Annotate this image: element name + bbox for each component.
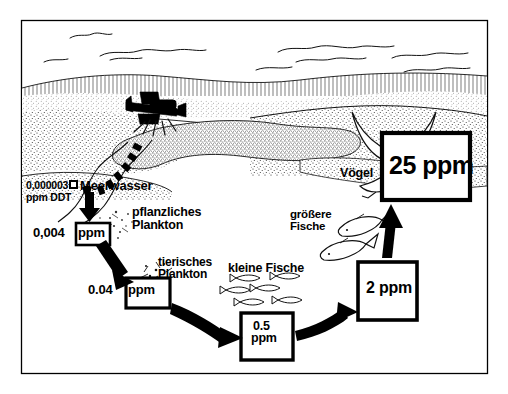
label-voegel: Vögel — [340, 167, 373, 180]
value-2-ppm: 2 ppm — [366, 280, 412, 297]
label-kleine-fische: kleine Fische — [228, 262, 304, 275]
value-004-unit: ppm — [128, 283, 155, 297]
ddt-food-chain-diagram: 0,000003 ppm DDT Meerwasser pflanzliches… — [0, 0, 508, 394]
value-0004-unit: ppm — [78, 226, 105, 240]
seawater-marker-square — [70, 181, 77, 188]
label-tierisches-plankton: tierisches Plankton — [158, 256, 212, 281]
ddt-concentration-value: 0,000003 — [26, 180, 68, 191]
value-004-number: 0.04 — [88, 283, 113, 297]
value-05-unit: ppm — [251, 332, 277, 345]
value-0004-number: 0,004 — [33, 226, 65, 240]
ddt-concentration-unit: ppm DDT — [26, 192, 71, 203]
label-meerwasser: Meerwasser — [80, 179, 152, 193]
value-25-ppm: 25 ppm — [389, 152, 474, 178]
label-pflanzliches-plankton: pflanzliches Plankton — [132, 206, 201, 232]
label-groessere-fische: größere Fische — [290, 209, 331, 233]
